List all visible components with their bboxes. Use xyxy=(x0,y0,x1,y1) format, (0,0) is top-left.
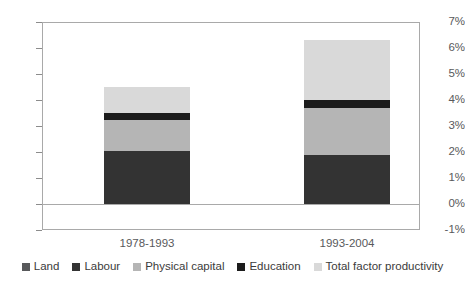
bar-segment xyxy=(104,151,190,204)
y-axis-label: 0% xyxy=(431,198,465,210)
legend-item[interactable]: Land xyxy=(22,261,60,273)
y-axis-tick xyxy=(36,178,42,179)
y-axis-tick xyxy=(36,230,42,231)
y-axis-label: 2% xyxy=(431,146,465,158)
stacked-bar-chart: 7%6%5%4%3%2%1%0%-1% 1978-19931993-2004 L… xyxy=(0,0,465,295)
legend-label: Labour xyxy=(84,261,120,273)
legend-label: Education xyxy=(249,261,300,273)
legend-label: Total factor productivity xyxy=(326,261,444,273)
x-axis-label: 1978-1993 xyxy=(87,238,207,250)
bar-segment xyxy=(304,108,390,155)
legend-swatch-icon xyxy=(72,263,80,271)
bar-segment xyxy=(304,100,390,108)
bar-segment xyxy=(304,40,390,100)
y-axis-label: -1% xyxy=(431,224,465,236)
legend-item[interactable]: Labour xyxy=(72,261,120,273)
legend-item[interactable]: Physical capital xyxy=(133,261,224,273)
legend-swatch-icon xyxy=(133,263,141,271)
y-axis-label: 7% xyxy=(431,16,465,28)
y-axis-label: 5% xyxy=(431,68,465,80)
legend-item[interactable]: Total factor productivity xyxy=(314,261,444,273)
legend-label: Land xyxy=(34,261,60,273)
bar-segment xyxy=(104,113,190,120)
bar-segment xyxy=(104,87,190,113)
bar-stack xyxy=(304,22,390,230)
legend-swatch-icon xyxy=(314,263,322,271)
y-axis-tick xyxy=(36,74,42,75)
y-axis-tick xyxy=(36,22,42,23)
bar-stack xyxy=(104,22,190,230)
x-axis-label: 1993-2004 xyxy=(287,238,407,250)
y-axis-tick xyxy=(36,152,42,153)
y-axis-tick xyxy=(36,126,42,127)
y-axis-label: 3% xyxy=(431,120,465,132)
y-axis-label: 4% xyxy=(431,94,465,106)
legend-label: Physical capital xyxy=(145,261,224,273)
legend-item[interactable]: Education xyxy=(237,261,300,273)
y-axis-label: 1% xyxy=(431,172,465,184)
bar-segment xyxy=(304,155,390,204)
y-axis-tick xyxy=(36,100,42,101)
y-axis-tick xyxy=(36,48,42,49)
bar-segment xyxy=(104,120,190,151)
chart-legend: LandLabourPhysical capitalEducationTotal… xyxy=(0,261,465,273)
y-axis-label: 6% xyxy=(431,42,465,54)
legend-swatch-icon xyxy=(22,263,30,271)
legend-swatch-icon xyxy=(237,263,245,271)
